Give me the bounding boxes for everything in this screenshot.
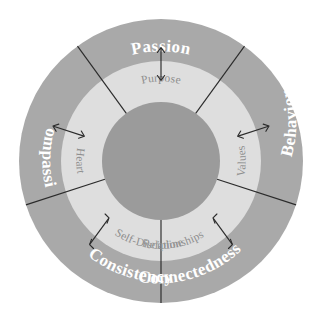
ring-diagram-svg: Passion Behavior Connectedness Consisten… <box>0 0 322 321</box>
ring-diagram: Passion Behavior Connectedness Consisten… <box>0 0 322 321</box>
segment-sublabel-heart: Heart <box>74 148 87 176</box>
center-hub <box>102 102 220 220</box>
segment-sublabel-values: Values <box>234 144 248 177</box>
